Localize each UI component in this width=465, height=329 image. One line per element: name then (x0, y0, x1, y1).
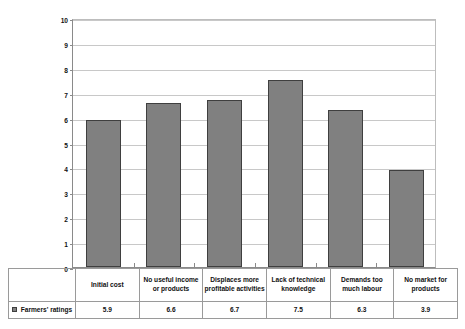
category-divider (194, 263, 195, 267)
category-divider (316, 263, 317, 267)
bar-slot (134, 20, 195, 267)
category-divider (376, 263, 377, 267)
legend-swatch-icon (12, 307, 17, 312)
bar (268, 80, 303, 267)
table-row-categories: Initial costNo useful income or products… (9, 269, 458, 302)
bars-group (73, 20, 435, 267)
plot-area: 109876543210 (72, 19, 436, 268)
bar (86, 120, 121, 267)
table-category-header: Demands too much labour (330, 269, 394, 302)
table-category-header: No market for products (394, 269, 458, 302)
bar-slot (194, 20, 255, 267)
bar-slot (316, 20, 377, 267)
data-table-wrapper: Initial costNo useful income or products… (8, 268, 436, 319)
category-divider (134, 263, 135, 267)
bar (389, 170, 424, 267)
data-table: Initial costNo useful income or products… (8, 268, 458, 319)
table-value-cell: 6.3 (330, 302, 394, 319)
bar-slot (255, 20, 316, 267)
y-axis-tick-label: 2 (64, 216, 68, 223)
y-axis-tick-label: 8 (64, 66, 68, 73)
table-value-cell: 6.7 (203, 302, 267, 319)
y-axis-tick-label: 9 (64, 41, 68, 48)
y-axis-tick-label: 7 (64, 91, 68, 98)
table-category-header: Initial cost (76, 269, 140, 302)
table-category-header: Lack of technical knowledge (266, 269, 330, 302)
y-axis-tick-label: 3 (64, 191, 68, 198)
legend-label: Farmers' ratings (21, 306, 72, 315)
table-category-header: No useful income or products (139, 269, 203, 302)
bar (328, 110, 363, 267)
category-divider (255, 263, 256, 267)
table-row-values: Farmers' ratings 5.96.66.77.56.33.9 (9, 302, 458, 319)
table-value-cell: 3.9 (394, 302, 458, 319)
bar (146, 103, 181, 267)
bar-slot (376, 20, 437, 267)
bar (207, 100, 242, 267)
legend-entry: Farmers' ratings (9, 302, 76, 319)
table-category-header: Displaces more profitable activities (203, 269, 267, 302)
table-stub-blank (9, 269, 76, 302)
bar-slot (73, 20, 134, 267)
table-value-cell: 6.6 (139, 302, 203, 319)
table-value-cell: 5.9 (76, 302, 140, 319)
table-value-cell: 7.5 (266, 302, 330, 319)
y-axis-tick-label: 5 (64, 141, 68, 148)
y-axis-tick-label: 1 (64, 241, 68, 248)
y-axis-tick-label: 6 (64, 116, 68, 123)
y-axis-tick-label: 10 (61, 17, 68, 24)
chart-figure: Mean score out of 10 109876543210 Initia… (0, 0, 465, 329)
y-axis-tick-label: 4 (64, 166, 68, 173)
